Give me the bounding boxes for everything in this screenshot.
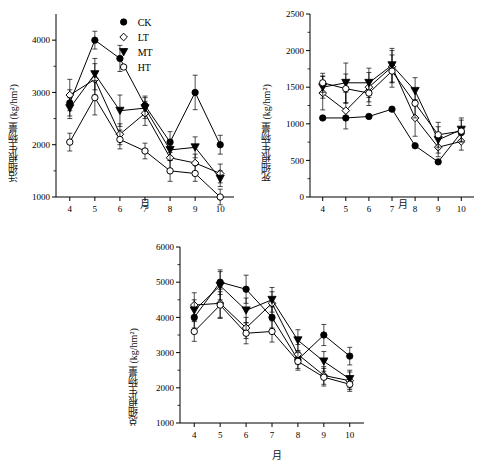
x-tick-label: 10 bbox=[457, 204, 467, 214]
marker-open-circle bbox=[192, 170, 198, 176]
series-HT bbox=[320, 55, 465, 147]
x-tick-label: 6 bbox=[367, 204, 372, 214]
marker-filled-circle bbox=[321, 332, 327, 338]
plot-area-dead: 0500100015002000250045678910 bbox=[276, 8, 482, 223]
x-axis-label-live: 月 bbox=[140, 196, 150, 211]
x-tick-label: 8 bbox=[168, 204, 173, 214]
y-tick-label: 5000 bbox=[156, 277, 175, 287]
marker-filled-triangle-down bbox=[91, 71, 99, 78]
legend-label: LT bbox=[138, 32, 149, 43]
marker-filled-circle bbox=[366, 113, 372, 119]
y-tick-label: 3000 bbox=[156, 348, 175, 358]
y-tick-label: 6000 bbox=[156, 242, 175, 252]
y-tick-label: 3000 bbox=[32, 88, 51, 98]
marker-filled-triangle-down bbox=[242, 307, 250, 314]
x-tick-label: 10 bbox=[345, 430, 355, 440]
y-tick-label: 1000 bbox=[32, 192, 51, 202]
x-tick-label: 4 bbox=[192, 430, 197, 440]
y-tick-label: 0 bbox=[300, 192, 305, 202]
marker-filled-circle bbox=[435, 159, 441, 165]
marker-filled-circle bbox=[412, 143, 418, 149]
marker-filled-triangle-down bbox=[116, 107, 124, 114]
y-tick-label: 1000 bbox=[286, 119, 305, 129]
x-tick-label: 7 bbox=[270, 430, 275, 440]
marker-open-circle bbox=[366, 90, 372, 96]
marker-filled-circle bbox=[389, 106, 395, 112]
legend-label: CK bbox=[138, 17, 153, 28]
marker-open-circle bbox=[295, 358, 301, 364]
x-tick-label: 4 bbox=[320, 204, 325, 214]
y-tick-label: 1000 bbox=[156, 418, 175, 428]
marker-open-circle bbox=[269, 328, 275, 334]
x-tick-label: 8 bbox=[296, 430, 301, 440]
marker-filled-circle bbox=[192, 89, 198, 95]
x-tick-label: 6 bbox=[118, 204, 123, 214]
marker-open-circle bbox=[217, 194, 223, 200]
legend-label: MT bbox=[138, 47, 153, 58]
y-tick-label: 2000 bbox=[156, 383, 175, 393]
marker-open-circle bbox=[389, 68, 395, 74]
marker-open-circle bbox=[435, 132, 441, 138]
plot-area-live: 100020003000400045678910CKLTMTHT bbox=[22, 8, 242, 223]
x-tick-label: 9 bbox=[322, 430, 327, 440]
marker-open-diamond bbox=[120, 33, 128, 41]
marker-filled-circle bbox=[117, 55, 123, 61]
marker-filled-triangle-down bbox=[120, 49, 128, 56]
marker-open-circle bbox=[167, 168, 173, 174]
x-axis-label-total: 月 bbox=[272, 447, 282, 462]
series-CK bbox=[320, 106, 465, 165]
y-tick-label: 500 bbox=[291, 156, 305, 166]
legend: CKLTMTHT bbox=[120, 17, 153, 73]
marker-filled-circle bbox=[120, 19, 126, 25]
x-tick-label: 5 bbox=[344, 204, 349, 214]
marker-open-circle bbox=[458, 128, 464, 134]
y-tick-label: 2000 bbox=[32, 140, 51, 150]
marker-filled-circle bbox=[243, 286, 249, 292]
y-tick-label: 2500 bbox=[286, 9, 305, 19]
marker-open-circle bbox=[92, 94, 98, 100]
x-tick-label: 5 bbox=[218, 430, 223, 440]
y-tick-label: 2000 bbox=[286, 46, 305, 56]
series-CK bbox=[191, 270, 353, 369]
chart-panel-total-fine-root: 总细根生物量 (kg/hm²) 100020003000400050006000… bbox=[120, 233, 390, 471]
marker-open-circle bbox=[321, 374, 327, 380]
marker-open-circle bbox=[412, 100, 418, 106]
chart-panel-live-fine-root: 活细根生物量 (kg/hm²) 100020003000400045678910… bbox=[0, 0, 250, 225]
y-tick-label: 4000 bbox=[32, 35, 51, 45]
y-axis-label-dead: 死细根生物量 (kg/hm²) bbox=[259, 22, 274, 182]
marker-filled-circle bbox=[92, 37, 98, 43]
x-tick-label: 9 bbox=[436, 204, 441, 214]
plot-area-total: 10002000300040005000600045678910 bbox=[144, 241, 374, 449]
marker-open-circle bbox=[343, 85, 349, 91]
marker-open-circle bbox=[243, 330, 249, 336]
x-tick-label: 8 bbox=[413, 204, 418, 214]
x-tick-label: 4 bbox=[68, 204, 73, 214]
marker-open-circle bbox=[191, 328, 197, 334]
y-tick-label: 1500 bbox=[286, 82, 305, 92]
marker-open-circle bbox=[142, 148, 148, 154]
x-tick-label: 6 bbox=[244, 430, 249, 440]
marker-filled-triangle-down bbox=[216, 175, 224, 182]
marker-filled-triangle-down bbox=[66, 105, 74, 112]
marker-open-circle bbox=[120, 64, 126, 70]
marker-open-circle bbox=[217, 302, 223, 308]
marker-filled-circle bbox=[347, 353, 353, 359]
marker-filled-circle bbox=[217, 142, 223, 148]
x-axis-label-dead: 月 bbox=[398, 196, 408, 211]
marker-open-circle bbox=[117, 136, 123, 142]
x-tick-label: 9 bbox=[193, 204, 198, 214]
marker-filled-circle bbox=[320, 115, 326, 121]
y-axis-label-live: 活细根生物量 (kg/hm²) bbox=[6, 22, 21, 182]
marker-open-circle bbox=[347, 381, 353, 387]
y-axis-label-total: 总细根生物量 (kg/hm²) bbox=[126, 261, 141, 426]
marker-filled-triangle-down bbox=[320, 358, 328, 365]
marker-open-circle bbox=[67, 139, 73, 145]
chart-panel-dead-fine-root: 死细根生物量 (kg/hm²) 050010001500200025004567… bbox=[250, 0, 486, 225]
x-tick-label: 7 bbox=[390, 204, 395, 214]
x-tick-label: 10 bbox=[216, 204, 226, 214]
y-tick-label: 4000 bbox=[156, 313, 175, 323]
marker-open-circle bbox=[320, 80, 326, 86]
x-tick-label: 5 bbox=[93, 204, 98, 214]
legend-label: HT bbox=[138, 62, 151, 73]
